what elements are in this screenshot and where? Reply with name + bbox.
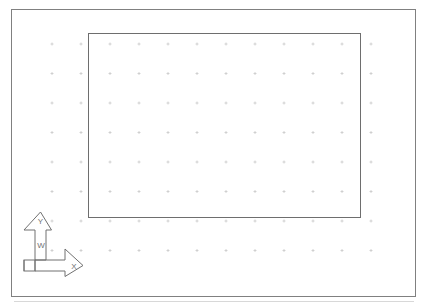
grid-mark — [109, 161, 112, 164]
ucs-w-label: W — [37, 241, 45, 250]
grid-mark — [51, 43, 54, 46]
grid-mark — [312, 102, 315, 105]
ucs-x-label: X — [71, 262, 77, 271]
grid-mark — [341, 161, 344, 164]
grid-mark — [196, 249, 199, 252]
grid-mark — [341, 72, 344, 75]
grid-mark — [80, 72, 83, 75]
grid-mark — [109, 72, 112, 75]
grid-mark — [196, 131, 199, 134]
grid-mark — [109, 190, 112, 193]
grid-mark — [370, 161, 373, 164]
grid-mark — [167, 43, 170, 46]
grid-mark — [254, 102, 257, 105]
ucs-origin-box — [24, 260, 35, 271]
grid-mark — [51, 249, 54, 252]
grid-mark — [370, 220, 373, 223]
grid-mark — [312, 72, 315, 75]
grid-mark — [196, 190, 199, 193]
grid-mark — [51, 102, 54, 105]
rectangle-entity[interactable] — [89, 34, 361, 218]
grid-mark — [138, 220, 141, 223]
grid-mark — [167, 131, 170, 134]
grid-mark — [167, 161, 170, 164]
grid-mark — [254, 72, 257, 75]
grid-mark — [196, 102, 199, 105]
grid-mark — [109, 43, 112, 46]
grid-mark — [283, 249, 286, 252]
grid-mark — [225, 190, 228, 193]
grid-mark — [254, 161, 257, 164]
grid-mark — [80, 249, 83, 252]
cad-drawing-application: YWX Y X W CAD Drawing Area — [0, 0, 426, 305]
grid-mark — [341, 43, 344, 46]
grid-mark — [196, 43, 199, 46]
grid-mark — [312, 43, 315, 46]
grid-mark — [138, 102, 141, 105]
grid-mark — [283, 190, 286, 193]
ucs-y-label: Y — [38, 217, 44, 226]
drawing-viewport-border — [12, 10, 416, 297]
grid-mark — [167, 102, 170, 105]
grid-mark — [196, 220, 199, 223]
grid-mark — [80, 102, 83, 105]
grid-mark — [51, 131, 54, 134]
grid-mark — [225, 220, 228, 223]
grid-mark — [312, 220, 315, 223]
wcs-coordinate-icon[interactable]: YWX — [24, 212, 83, 277]
grid-mark — [370, 72, 373, 75]
grid-mark — [167, 220, 170, 223]
grid-mark — [138, 161, 141, 164]
grid-mark — [341, 249, 344, 252]
grid-mark — [51, 161, 54, 164]
grid-mark — [138, 43, 141, 46]
grid-mark — [283, 102, 286, 105]
grid-mark — [283, 43, 286, 46]
grid-mark — [341, 190, 344, 193]
grid-mark — [254, 131, 257, 134]
grid-mark — [370, 190, 373, 193]
grid-mark — [312, 131, 315, 134]
grid-mark — [225, 249, 228, 252]
grid-mark — [283, 220, 286, 223]
grid-mark — [283, 72, 286, 75]
grid-mark — [51, 190, 54, 193]
grid-mark — [109, 249, 112, 252]
grid-mark — [225, 131, 228, 134]
grid-mark — [254, 249, 257, 252]
grid-mark — [370, 131, 373, 134]
grid-mark — [341, 102, 344, 105]
grid-mark — [138, 190, 141, 193]
grid-mark — [312, 161, 315, 164]
grid-mark — [80, 190, 83, 193]
grid-mark — [80, 43, 83, 46]
grid-mark — [167, 190, 170, 193]
grid-mark — [138, 249, 141, 252]
grid-mark — [80, 220, 83, 223]
grid-mark — [254, 190, 257, 193]
grid-mark — [80, 131, 83, 134]
grid-mark — [109, 102, 112, 105]
grid-mark — [225, 102, 228, 105]
grid-mark — [225, 161, 228, 164]
grid-mark — [225, 43, 228, 46]
entity-layer — [89, 34, 361, 218]
drawing-canvas[interactable]: YWX — [0, 0, 426, 305]
grid-mark — [138, 72, 141, 75]
grid-mark — [167, 72, 170, 75]
grid-mark — [312, 249, 315, 252]
grid-mark — [254, 43, 257, 46]
grid-mark — [283, 161, 286, 164]
grid-mark — [80, 161, 83, 164]
grid-mark — [225, 72, 228, 75]
grid-mark — [341, 131, 344, 134]
grid-mark — [109, 131, 112, 134]
grid-mark — [196, 72, 199, 75]
grid-mark — [312, 190, 315, 193]
grid-mark — [167, 249, 170, 252]
grid-mark — [138, 131, 141, 134]
grid-mark — [370, 102, 373, 105]
grid-mark — [51, 72, 54, 75]
grid-mark — [283, 131, 286, 134]
snap-grid — [51, 43, 373, 253]
